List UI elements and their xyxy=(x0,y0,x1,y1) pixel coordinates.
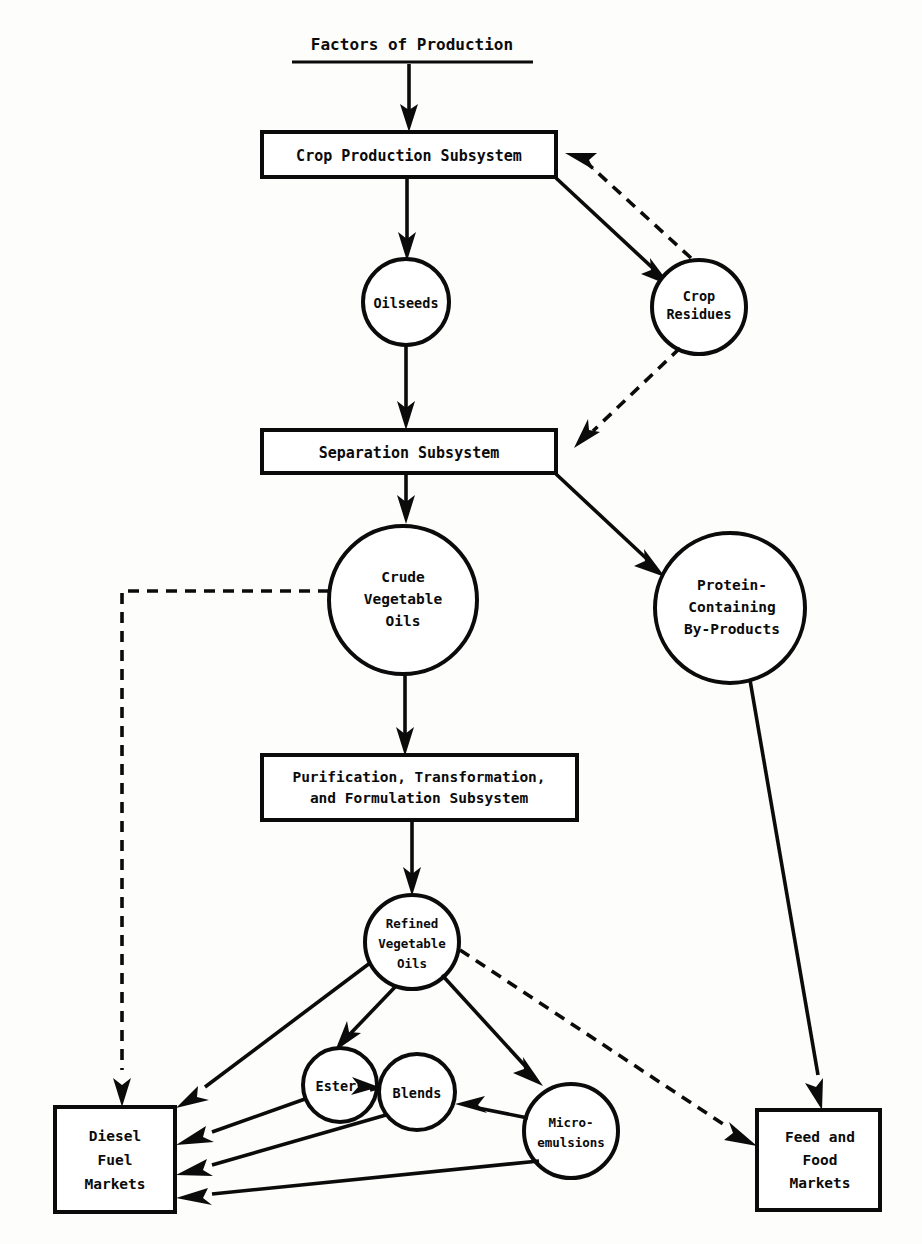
edge-separation-to-protein xyxy=(556,474,665,577)
protein-by-products-label-line2: Containing xyxy=(688,599,775,615)
micro-emulsions-label-line1: Micro- xyxy=(548,1115,593,1130)
purification-subsystem-box xyxy=(262,755,577,820)
edge-separation-to-crude-oils xyxy=(397,473,415,524)
edge-esters-to-diesel-markets xyxy=(176,1099,305,1145)
node-protein-containing-by-products: Protein- Containing By-Products xyxy=(655,533,805,683)
node-blends: Blends xyxy=(379,1054,455,1130)
diesel-fuel-markets-label-line3: Markets xyxy=(84,1176,145,1192)
node-purification-transformation-formulation-subsystem: Purification, Transformation, and Formul… xyxy=(262,755,577,820)
micro-emulsions-label-line2: emulsions xyxy=(537,1135,605,1150)
diesel-fuel-markets-label-line1: Diesel xyxy=(89,1128,141,1144)
diesel-fuel-markets-label-line2: Fuel xyxy=(98,1152,133,1168)
refined-vegetable-oils-label-line2: Vegetable xyxy=(378,936,446,951)
micro-emulsions-circle xyxy=(524,1084,618,1178)
edge-protein-to-feed-food-markets xyxy=(750,680,823,1110)
edge-micro-emulsions-to-blends xyxy=(455,1096,528,1118)
crop-residues-label-line1: Crop xyxy=(683,288,716,304)
node-diesel-fuel-markets: Diesel Fuel Markets xyxy=(55,1107,175,1212)
edge-blends-to-diesel-markets xyxy=(176,1115,386,1176)
edge-crude-oils-to-purification xyxy=(396,674,414,756)
flow-diagram-svg: Factors of Production Crop Production Su… xyxy=(0,0,922,1244)
node-crop-production-subsystem: Crop Production Subsystem xyxy=(262,132,556,177)
crop-residues-label-line2: Residues xyxy=(666,306,731,322)
edge-micro-emulsions-to-diesel-markets xyxy=(176,1161,539,1205)
edge-refined-oils-to-esters xyxy=(335,986,396,1051)
node-oilseeds: Oilseeds xyxy=(363,259,449,345)
blends-label: Blends xyxy=(393,1085,442,1101)
factors-of-production-label: Factors of Production xyxy=(311,35,513,54)
edge-purification-to-refined-oils xyxy=(403,820,421,896)
edge-refined-oils-to-micro-emulsions xyxy=(442,975,543,1086)
edge-oilseeds-to-separation xyxy=(397,345,415,430)
crude-vegetable-oils-label-line1: Crude xyxy=(381,569,425,585)
node-crop-residues: Crop Residues xyxy=(652,260,746,354)
protein-by-products-label-line3: By-Products xyxy=(684,621,780,637)
crude-vegetable-oils-label-line3: Oils xyxy=(386,613,421,629)
protein-by-products-label-line1: Protein- xyxy=(697,577,767,593)
edge-crude-oils-to-diesel-markets-dashed xyxy=(113,591,329,1107)
feed-and-food-markets-label-line3: Markets xyxy=(789,1175,850,1191)
purification-subsystem-label-line2: and Formulation Subsystem xyxy=(310,790,529,806)
node-micro-emulsions: Micro- emulsions xyxy=(524,1084,618,1178)
edge-crop-production-to-crop-residues xyxy=(556,178,671,286)
node-factors-of-production: Factors of Production xyxy=(292,35,533,62)
edge-factors-to-crop-production xyxy=(400,64,418,132)
node-separation-subsystem: Separation Subsystem xyxy=(262,430,556,473)
separation-subsystem-label: Separation Subsystem xyxy=(319,444,500,462)
node-crude-vegetable-oils: Crude Vegetable Oils xyxy=(329,526,477,674)
node-feed-and-food-markets: Feed and Food Markets xyxy=(757,1110,880,1210)
feed-and-food-markets-label-line1: Feed and xyxy=(785,1129,855,1145)
refined-vegetable-oils-label-line3: Oils xyxy=(397,956,427,971)
crude-vegetable-oils-label-line2: Vegetable xyxy=(364,591,443,607)
flow-diagram-canvas: Factors of Production Crop Production Su… xyxy=(0,0,922,1244)
feed-and-food-markets-label-line2: Food xyxy=(803,1152,838,1168)
crop-production-subsystem-label: Crop Production Subsystem xyxy=(296,147,522,165)
refined-vegetable-oils-label-line1: Refined xyxy=(386,916,439,931)
edge-crop-residues-to-separation-dashed xyxy=(574,348,680,448)
purification-subsystem-label-line1: Purification, Transformation, xyxy=(292,769,545,785)
oilseeds-label: Oilseeds xyxy=(373,295,438,311)
node-refined-vegetable-oils: Refined Vegetable Oils xyxy=(365,895,459,989)
edge-crop-production-to-oilseeds xyxy=(398,177,416,261)
